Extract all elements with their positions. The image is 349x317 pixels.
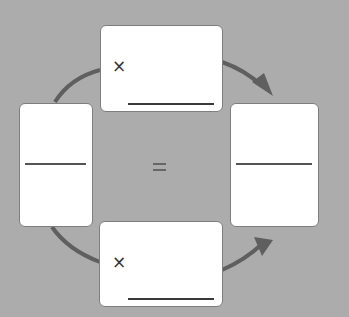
diagram-canvas: × × <box>0 0 349 317</box>
bottom-left-arc <box>52 227 100 262</box>
equals-sign-icon <box>153 163 166 175</box>
right-numerator-blank[interactable] <box>236 108 312 160</box>
top-times-icon: × <box>112 58 126 75</box>
right-fraction-bar <box>236 163 312 165</box>
bottom-right-arrow <box>222 244 262 270</box>
right-denominator-blank[interactable] <box>236 168 312 220</box>
top-multiplier-blank[interactable] <box>128 103 214 105</box>
left-denominator-blank[interactable] <box>25 168 87 220</box>
bottom-times-icon: × <box>112 254 126 271</box>
top-left-arc <box>55 70 100 102</box>
arrowhead-top-icon <box>252 73 273 96</box>
bottom-multiplier-blank[interactable] <box>128 298 214 300</box>
left-fraction-bar <box>25 163 86 165</box>
left-numerator-blank[interactable] <box>25 108 87 160</box>
